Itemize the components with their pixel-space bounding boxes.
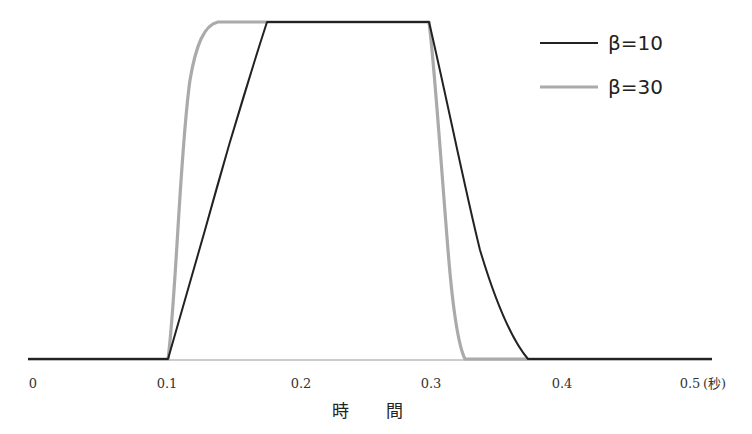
x-tick-1: 0.1 <box>157 376 178 391</box>
legend-label-beta-30: β=30 <box>608 75 663 99</box>
x-tick-5: 0.5 <box>680 376 701 391</box>
legend-label-beta-10: β=10 <box>608 31 663 55</box>
x-axis-title-right: 間 <box>386 401 403 421</box>
chart: 0 0.1 0.2 0.3 0.4 0.5 (秒) 時 間 β=10 β=30 <box>0 0 752 434</box>
x-tick-labels: 0 0.1 0.2 0.3 0.4 0.5 (秒) <box>29 376 726 391</box>
x-axis-title-left: 時 <box>332 401 349 421</box>
x-tick-0: 0 <box>29 376 37 391</box>
x-unit-label: (秒) <box>703 376 726 391</box>
series-beta-30-line <box>28 22 712 359</box>
series-beta-10-line <box>28 22 712 359</box>
x-tick-3: 0.3 <box>421 376 442 391</box>
legend: β=10 β=30 <box>540 31 663 99</box>
x-tick-4: 0.4 <box>552 376 573 391</box>
x-tick-2: 0.2 <box>291 376 312 391</box>
